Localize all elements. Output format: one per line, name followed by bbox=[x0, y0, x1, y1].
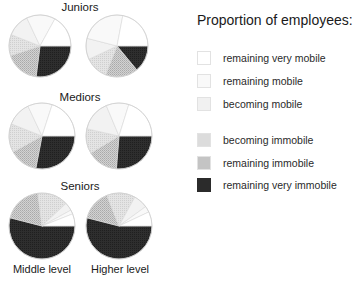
legend-item-becoming-immobile: becoming immobile bbox=[197, 133, 313, 147]
legend-swatch bbox=[197, 51, 211, 65]
legend-title: Proportion of employees: bbox=[197, 12, 353, 28]
legend-item-remaining-very-mobile: remaining very mobile bbox=[197, 51, 326, 65]
legend-label: remaining immobile bbox=[223, 157, 314, 169]
group-title-mediors: Mediors bbox=[40, 91, 120, 103]
column-label-higher-level: Higher level bbox=[80, 263, 160, 275]
pie-seniors-middle-level bbox=[9, 193, 75, 259]
pie-slice-remaining-very-immobile bbox=[116, 136, 152, 169]
legend-label: remaining mobile bbox=[223, 75, 303, 87]
pie-juniors-higher-level bbox=[86, 15, 148, 77]
legend-label: becoming mobile bbox=[223, 98, 302, 110]
legend-item-becoming-mobile: becoming mobile bbox=[197, 97, 302, 111]
legend-swatch bbox=[197, 156, 211, 170]
legend-label: remaining very immobile bbox=[223, 179, 337, 191]
pie-slice-remaining-very-immobile bbox=[36, 46, 71, 77]
legend-swatch bbox=[197, 178, 211, 192]
legend-item-remaining-very-immobile: remaining very immobile bbox=[197, 178, 337, 192]
legend-item-remaining-mobile: remaining mobile bbox=[197, 74, 303, 88]
pie-slice-remaining-very-immobile bbox=[36, 136, 75, 169]
legend-label: remaining very mobile bbox=[223, 52, 326, 64]
legend-swatch bbox=[197, 133, 211, 147]
pie-mediors-higher-level bbox=[86, 103, 152, 169]
pie-mediors-middle-level bbox=[9, 103, 75, 169]
group-title-seniors: Seniors bbox=[40, 180, 120, 192]
pie-seniors-higher-level bbox=[86, 193, 152, 259]
group-title-juniors: Juniors bbox=[40, 1, 120, 13]
legend-label: becoming immobile bbox=[223, 134, 313, 146]
pie-slice-remaining-very-mobile bbox=[117, 16, 148, 46]
pie-juniors-middle-level bbox=[9, 15, 71, 77]
legend-item-remaining-immobile: remaining immobile bbox=[197, 156, 314, 170]
column-label-middle-level: Middle level bbox=[2, 263, 82, 275]
legend-swatch bbox=[197, 97, 211, 111]
legend-swatch bbox=[197, 74, 211, 88]
